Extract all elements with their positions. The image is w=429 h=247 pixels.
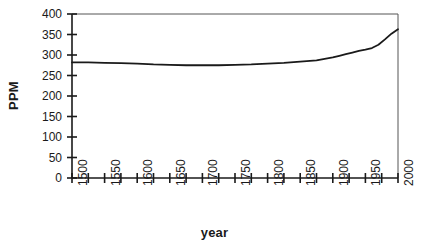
- y-tick-label: 100: [20, 131, 62, 143]
- chart-container: PPM year 050100150200250300350400 150015…: [0, 0, 429, 247]
- y-tick-label: 350: [20, 29, 62, 41]
- x-tick-label: 1900: [338, 159, 350, 186]
- x-tick-label: 1750: [240, 159, 252, 186]
- x-tick-label: 1950: [370, 159, 382, 186]
- axis-frame: [72, 14, 398, 178]
- y-tick-label: 0: [20, 172, 62, 184]
- data-line-series-0: [72, 29, 398, 65]
- y-tick-label: 250: [20, 70, 62, 82]
- y-tick-label: 150: [20, 111, 62, 123]
- x-tick-label: 1600: [142, 159, 154, 186]
- x-tick-label: 1700: [207, 159, 219, 186]
- plot-area: [0, 0, 429, 247]
- x-tick-label: 1800: [273, 159, 285, 186]
- x-tick-label: 1850: [305, 159, 317, 186]
- x-tick-label: 2000: [403, 159, 415, 186]
- y-tick-label: 400: [20, 8, 62, 20]
- x-tick-label: 1650: [175, 159, 187, 186]
- y-tick-label: 50: [20, 152, 62, 164]
- x-tick-label: 1500: [77, 159, 89, 186]
- y-tick-label: 200: [20, 90, 62, 102]
- y-tick-label: 300: [20, 49, 62, 61]
- x-tick-label: 1550: [110, 159, 122, 186]
